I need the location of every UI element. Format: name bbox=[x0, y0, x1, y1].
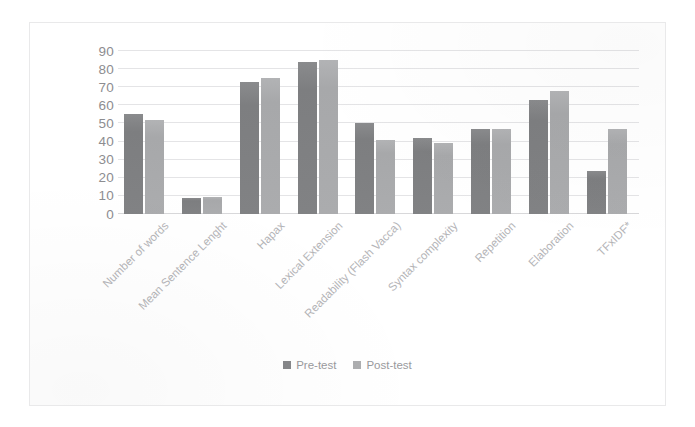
x-axis-label: Hapax bbox=[255, 220, 287, 252]
legend-swatch-icon bbox=[283, 361, 291, 369]
bar-group bbox=[523, 51, 581, 214]
bar-group bbox=[292, 51, 350, 214]
bar-post-test[interactable] bbox=[492, 129, 511, 214]
x-axis-label: Readability (Flash Vacca) bbox=[302, 220, 402, 320]
bar-post-test[interactable] bbox=[608, 129, 627, 214]
y-tick-label: 60 bbox=[99, 99, 114, 113]
chart-container: 0102030405060708090 Number of wordsMean … bbox=[29, 22, 666, 406]
legend-label: Post-test bbox=[366, 359, 411, 371]
chart-screenshot: 0102030405060708090 Number of wordsMean … bbox=[0, 0, 695, 427]
y-tick-label: 50 bbox=[99, 117, 114, 131]
x-axis-label: TFxIDF* bbox=[596, 220, 634, 258]
bar-post-test[interactable] bbox=[203, 197, 222, 214]
bar-post-test[interactable] bbox=[145, 120, 164, 214]
bar-post-test[interactable] bbox=[376, 140, 395, 214]
bar-post-test[interactable] bbox=[319, 60, 338, 214]
value-axis: 0102030405060708090 bbox=[70, 51, 114, 214]
legend-item-post-test[interactable]: Post-test bbox=[353, 359, 411, 371]
bar-pre-test[interactable] bbox=[471, 129, 490, 214]
bar-group bbox=[350, 51, 408, 214]
y-tick-label: 80 bbox=[99, 62, 114, 76]
bar-post-test[interactable] bbox=[434, 143, 453, 214]
bar-group bbox=[234, 51, 292, 214]
y-tick-label: 90 bbox=[99, 44, 114, 58]
bar-pre-test[interactable] bbox=[124, 114, 143, 214]
x-axis-label: Repetition bbox=[474, 220, 519, 265]
y-tick-label: 0 bbox=[106, 207, 114, 221]
bar-pre-test[interactable] bbox=[587, 171, 606, 214]
x-axis-label: Elaboration bbox=[527, 220, 576, 269]
category-axis: Number of wordsMean Sentence LenghtHapax… bbox=[118, 214, 639, 334]
bar-post-test[interactable] bbox=[261, 78, 280, 214]
y-tick-label: 40 bbox=[99, 135, 114, 149]
bar-pre-test[interactable] bbox=[182, 198, 201, 214]
bar-group bbox=[118, 51, 176, 214]
chart-legend: Pre-testPost-test bbox=[30, 359, 665, 371]
bar-group bbox=[465, 51, 523, 214]
legend-item-pre-test[interactable]: Pre-test bbox=[283, 359, 336, 371]
bar-group bbox=[176, 51, 234, 214]
y-tick-label: 70 bbox=[99, 80, 114, 94]
plot-area bbox=[118, 51, 639, 214]
bar-pre-test[interactable] bbox=[240, 82, 259, 214]
y-tick-label: 10 bbox=[99, 189, 114, 203]
bar-pre-test[interactable] bbox=[298, 62, 317, 214]
bar-group bbox=[581, 51, 639, 214]
y-tick-label: 30 bbox=[99, 153, 114, 167]
legend-swatch-icon bbox=[353, 361, 361, 369]
bar-post-test[interactable] bbox=[550, 91, 569, 214]
bar-pre-test[interactable] bbox=[529, 100, 548, 214]
y-tick-label: 20 bbox=[99, 171, 114, 185]
bar-group bbox=[407, 51, 465, 214]
legend-label: Pre-test bbox=[296, 359, 336, 371]
bar-pre-test[interactable] bbox=[413, 138, 432, 214]
bar-pre-test[interactable] bbox=[355, 123, 374, 214]
